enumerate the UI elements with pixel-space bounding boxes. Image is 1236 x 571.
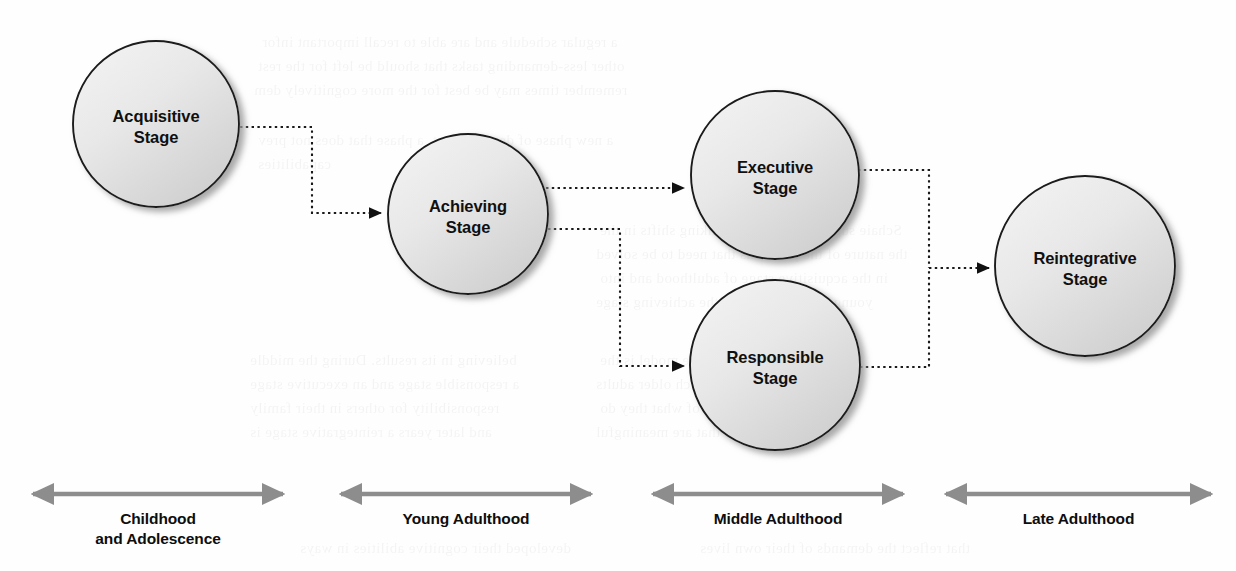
node-executive[interactable]: ExecutiveStage bbox=[691, 91, 859, 259]
node-acquisitive[interactable]: AcquisitiveStage bbox=[73, 41, 239, 207]
node-label-responsible: Responsible bbox=[726, 348, 823, 366]
timeline-label-childhood: Childhoodand Adolescence bbox=[13, 509, 303, 549]
timeline-label-late-adulthood: Late Adulthood bbox=[926, 509, 1231, 529]
timeline-label-line1-late-adulthood: Late Adulthood bbox=[926, 509, 1231, 529]
node-label-acquisitive: Acquisitive bbox=[113, 107, 200, 125]
connector-acquisitive-to-achieving bbox=[240, 127, 381, 213]
connector-achieving-to-responsible bbox=[548, 229, 684, 366]
node-responsible[interactable]: ResponsibleStage bbox=[690, 280, 860, 450]
node-label-reintegrative: Reintegrative bbox=[1033, 249, 1136, 267]
stage-flow-diagram: AcquisitiveStageAchievingStageExecutiveS… bbox=[0, 0, 1236, 571]
timeline-label-middle-adulthood: Middle Adulthood bbox=[633, 509, 923, 529]
node-label-achieving: Achieving bbox=[429, 197, 507, 215]
node-label-executive: Executive bbox=[737, 158, 813, 176]
node-group: AcquisitiveStageAchievingStageExecutiveS… bbox=[73, 41, 1175, 450]
connector-group bbox=[240, 127, 989, 367]
timeline-label-young-adulthood: Young Adulthood bbox=[321, 509, 611, 529]
node-sublabel-executive: Stage bbox=[753, 179, 797, 197]
connector-executive-to-reintegrative bbox=[858, 170, 929, 268]
timeline-label-line1-childhood: Childhood bbox=[13, 509, 303, 529]
timeline-label-line2-childhood: and Adolescence bbox=[13, 529, 303, 549]
node-sublabel-responsible: Stage bbox=[753, 369, 797, 387]
node-sublabel-acquisitive: Stage bbox=[134, 128, 178, 146]
timeline-label-line1-middle-adulthood: Middle Adulthood bbox=[633, 509, 923, 529]
node-achieving[interactable]: AchievingStage bbox=[388, 134, 548, 294]
node-sublabel-reintegrative: Stage bbox=[1063, 270, 1107, 288]
diagram-canvas: a regular schedule and are able to recal… bbox=[0, 0, 1236, 571]
node-sublabel-achieving: Stage bbox=[446, 218, 490, 236]
timeline-label-line1-young-adulthood: Young Adulthood bbox=[321, 509, 611, 529]
connector-responsible-to-reintegrative bbox=[860, 268, 929, 367]
node-reintegrative[interactable]: ReintegrativeStage bbox=[995, 176, 1175, 356]
